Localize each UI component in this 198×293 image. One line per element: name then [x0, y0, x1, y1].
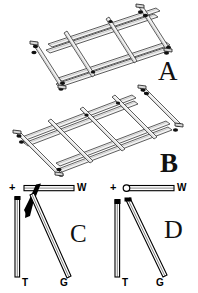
panel-d-t-cap	[115, 199, 121, 204]
figure-canvas: A	[0, 0, 198, 293]
panel-b-letter: B	[160, 148, 178, 178]
panel-c-t-cap	[15, 196, 21, 200]
panel-d-bar-w	[123, 185, 174, 192]
panel-a-letter: A	[158, 56, 178, 86]
panel-d-t-label: T	[122, 277, 128, 288]
panel-c-bar-w	[24, 186, 74, 191]
panel-d-w-label: W	[177, 182, 187, 193]
panel-d-g-label: G	[156, 277, 164, 288]
panel-d-plus-label: +	[110, 181, 116, 193]
panel-c-g-label: G	[60, 277, 68, 288]
panel-d-letter: D	[164, 215, 183, 244]
panel-c-t-label: T	[22, 277, 28, 288]
panel-c-letter: C	[70, 220, 87, 247]
figure-svg: A	[0, 0, 198, 293]
panel-d-bar-t	[115, 200, 120, 277]
panel-c-plus-label: +	[9, 181, 15, 193]
panel-c-bar-t	[15, 197, 20, 277]
panel-d-w-end-circle-icon	[123, 185, 130, 192]
panel-d-g-cap	[125, 198, 132, 202]
panel-c-w-label: W	[77, 182, 87, 193]
